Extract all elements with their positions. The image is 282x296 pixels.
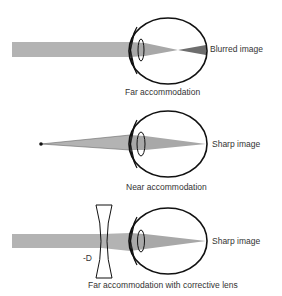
- parallel-light-beam: [12, 42, 132, 57]
- refracted-beam: [130, 42, 178, 57]
- panel-near-accommodation: [39, 111, 207, 177]
- lens-power-label: -D: [83, 253, 92, 263]
- label-sharp-image-corrected: Sharp image: [212, 236, 260, 246]
- parallel-light-beam: [12, 234, 102, 248]
- caption-far-accommodation: Far accommodation: [125, 87, 200, 97]
- caption-corrected-accommodation: Far accommodation with corrective lens: [88, 280, 238, 290]
- panel-corrected-accommodation: [12, 205, 207, 278]
- converging-light-cone: [130, 135, 206, 150]
- label-sharp-image-near: Sharp image: [212, 139, 260, 149]
- label-blurred-image: Blurred image: [210, 44, 263, 54]
- caption-near-accommodation: Near accommodation: [126, 182, 207, 192]
- diverging-beam: [178, 45, 206, 55]
- panel-far-accommodation: [12, 18, 207, 84]
- converging-beam: [130, 233, 206, 251]
- diverged-beam: [102, 233, 130, 251]
- point-light-source: [39, 142, 43, 146]
